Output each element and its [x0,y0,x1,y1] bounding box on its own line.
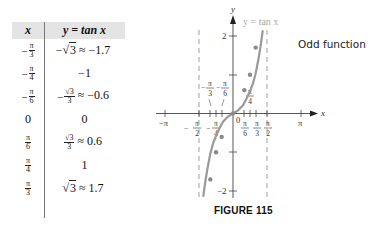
svg-text:3: 3 [208,89,212,98]
y-tick-2: 2 [222,31,227,41]
svg-text:−: − [184,124,188,133]
svg-text:π: π [223,79,227,88]
tan-graph: x y 2 −2 −π π 0 − π2 − π4 π6 π3 π2 − π3 [0,0,373,226]
curve-label: y = tan x [243,16,278,27]
svg-text:π: π [214,119,218,128]
svg-text:π: π [255,119,259,128]
svg-text:−: − [216,83,220,92]
svg-text:6: 6 [243,129,247,138]
figure-caption: FIGURE 115 [214,205,273,216]
svg-text:3: 3 [255,129,259,138]
x-tick-pi: π [298,118,303,128]
x-axis-arrow [310,111,318,117]
x-axis-label: x [320,108,325,118]
svg-text:−: − [206,124,210,133]
svg-text:π: π [243,119,247,128]
x-tick-neg-pi: −π [159,118,169,128]
svg-text:π: π [195,119,199,128]
svg-text:π: π [266,119,270,128]
svg-text:4: 4 [248,97,252,106]
svg-text:6: 6 [223,89,227,98]
svg-text:−: − [201,83,205,92]
svg-text:π: π [208,79,212,88]
y-axis-arrow [230,15,236,24]
svg-text:2: 2 [266,129,270,138]
origin-label: 0 [236,115,240,125]
y-axis-label: y [230,4,235,14]
y-tick-neg2: −2 [217,186,227,196]
svg-text:2: 2 [195,129,199,138]
odd-function-note: Odd function [298,38,366,50]
